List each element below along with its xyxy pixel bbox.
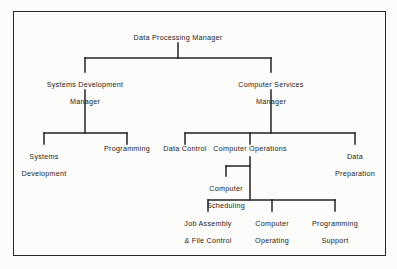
- node-data-processing-manager[interactable]: Data Processing Manager: [134, 34, 223, 42]
- node-programming-support-line2: Support: [322, 236, 349, 245]
- node-data-control[interactable]: Data Control: [163, 145, 206, 153]
- node-data-preparation-line1: Data: [347, 152, 363, 161]
- node-computer-operating[interactable]: Computer Operating: [255, 212, 289, 245]
- node-computer-services-manager-line2: Manager: [256, 97, 286, 106]
- node-computer-scheduling-line1: Computer: [209, 184, 243, 193]
- node-job-assembly-line2: & File Control: [184, 236, 231, 245]
- node-programming-support[interactable]: Programming Support: [312, 212, 358, 245]
- node-programming[interactable]: Programming: [104, 145, 150, 153]
- node-computer-operating-line1: Computer: [255, 219, 289, 228]
- node-systems-development-manager[interactable]: Systems Development Manager: [47, 73, 124, 106]
- node-computer-services-manager[interactable]: Computer Services Manager: [238, 73, 303, 106]
- node-computer-scheduling[interactable]: Computer Scheduling: [207, 177, 245, 210]
- node-data-preparation-line2: Preparation: [335, 169, 375, 178]
- node-data-preparation[interactable]: Data Preparation: [335, 145, 375, 178]
- org-chart-page: Data Processing Manager Systems Developm…: [0, 0, 397, 269]
- node-computer-operations[interactable]: Computer Operations: [213, 145, 286, 153]
- node-systems-development[interactable]: Systems Development: [21, 145, 66, 178]
- node-systems-development-manager-line2: Manager: [70, 97, 100, 106]
- node-computer-operating-line2: Operating: [255, 236, 289, 245]
- node-job-assembly-line1: Job Assembly: [184, 219, 231, 228]
- node-programming-support-line1: Programming: [312, 219, 358, 228]
- node-systems-development-line2: Development: [21, 169, 66, 178]
- node-computer-services-manager-line1: Computer Services: [238, 80, 303, 89]
- node-systems-development-manager-line1: Systems Development: [47, 80, 124, 89]
- node-computer-scheduling-line2: Scheduling: [207, 201, 245, 210]
- node-job-assembly-file-control[interactable]: Job Assembly & File Control: [184, 212, 231, 245]
- node-systems-development-line1: Systems: [29, 152, 58, 161]
